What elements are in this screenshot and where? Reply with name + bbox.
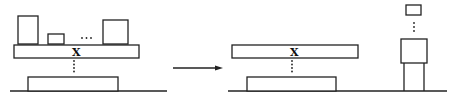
tall-box bbox=[18, 16, 38, 44]
dotted-connector bbox=[73, 60, 75, 72]
small-box bbox=[48, 34, 64, 44]
square-box bbox=[103, 20, 128, 44]
base-block bbox=[247, 77, 336, 91]
small-box bbox=[406, 5, 421, 15]
left-panel: X bbox=[10, 16, 167, 91]
platform-label: X bbox=[290, 46, 299, 59]
platform-label: X bbox=[72, 46, 81, 59]
stacked-tower bbox=[401, 5, 427, 91]
dotted-connector bbox=[291, 60, 293, 72]
arrow-icon bbox=[173, 66, 223, 71]
base-block bbox=[28, 77, 118, 91]
diagram-canvas: X X bbox=[0, 0, 453, 98]
ellipsis-dots bbox=[81, 37, 92, 39]
square-box bbox=[401, 39, 427, 63]
ellipsis-dots-vertical bbox=[413, 22, 415, 32]
right-panel: X bbox=[228, 5, 447, 91]
